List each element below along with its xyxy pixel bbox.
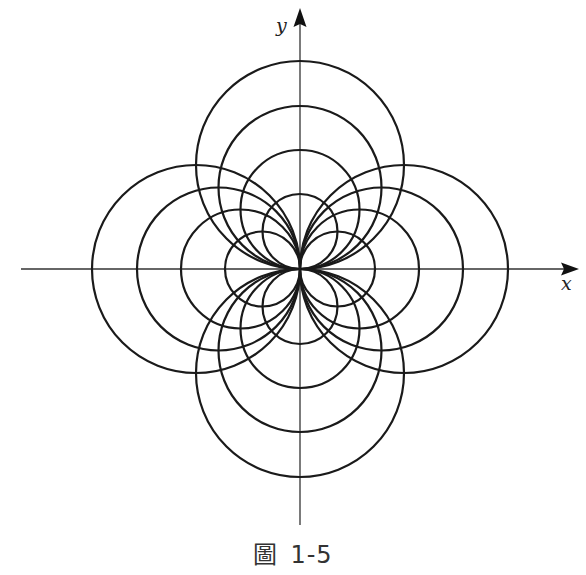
caption-prefix: 圖 (253, 541, 278, 569)
caption-number: 1-5 (290, 541, 332, 569)
figure-caption: 圖1-5 (0, 535, 586, 570)
y-axis-label: y (276, 14, 287, 36)
x-axis-label: x (561, 272, 572, 294)
circle-family-diagram (0, 0, 586, 575)
